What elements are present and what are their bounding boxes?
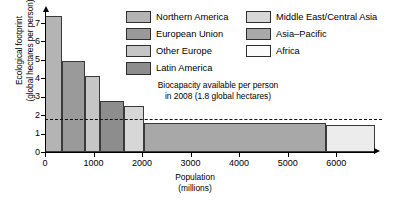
x-axis-tick xyxy=(94,153,95,157)
legend-item-label: Other Europe xyxy=(156,45,212,58)
bar xyxy=(45,16,62,152)
y-axis-tick xyxy=(41,78,45,79)
bar xyxy=(124,106,144,152)
y-axis-tick-label: 7 xyxy=(26,19,40,28)
biocapacity-annotation: Biocapacity available per person in 2008… xyxy=(118,80,318,101)
x-axis-tick xyxy=(336,153,337,157)
y-axis-tick-label: 6 xyxy=(26,37,40,46)
legend-item-label: European Union xyxy=(156,28,223,41)
y-axis-tick-label: 2 xyxy=(26,111,40,120)
y-axis-tick xyxy=(41,134,45,135)
legend-swatch xyxy=(126,28,151,41)
x-axis-arrow-icon xyxy=(374,148,380,154)
legend-item-label: Northern America xyxy=(156,11,228,24)
y-axis-tick-label: 5 xyxy=(26,55,40,64)
y-axis-arrow-icon xyxy=(43,6,49,12)
y-axis-tick-label: 0 xyxy=(26,148,40,157)
y-axis-tick xyxy=(41,41,45,42)
x-axis-tick-label: 3000 xyxy=(171,159,211,168)
x-axis-tick-label: 4000 xyxy=(219,159,259,168)
y-axis-tick xyxy=(41,115,45,116)
x-axis-title-line1: Population xyxy=(110,172,280,183)
legend-item-label: Middle East/Central Asia xyxy=(276,11,377,24)
legend-item-label: Latin America xyxy=(156,62,212,75)
biocapacity-annotation-line1: Biocapacity available per person xyxy=(118,80,318,91)
y-axis-tick xyxy=(41,97,45,98)
chart-root: Ecological footprint (global hectares pe… xyxy=(0,0,396,201)
y-axis-title-line1: Ecological footprint xyxy=(14,0,25,124)
x-axis-title: Population (millions) xyxy=(110,172,280,193)
x-axis-tick xyxy=(239,153,240,157)
bar xyxy=(144,123,327,152)
x-axis-tick xyxy=(45,153,46,157)
x-axis-tick-label: 2000 xyxy=(122,159,162,168)
bar xyxy=(85,76,100,152)
biocapacity-annotation-line2: in 2008 (1.8 global hectares) xyxy=(118,91,318,102)
x-axis-tick xyxy=(288,153,289,157)
legend-swatch xyxy=(246,11,271,24)
x-axis-tick xyxy=(191,153,192,157)
bar xyxy=(100,101,124,152)
legend-swatch xyxy=(246,45,271,58)
x-axis-tick-label: 5000 xyxy=(268,159,308,168)
legend-swatch xyxy=(126,11,151,24)
x-axis-tick xyxy=(142,153,143,157)
biocapacity-reference-line xyxy=(45,119,382,120)
y-axis-tick-label: 1 xyxy=(26,129,40,138)
x-axis-tick-label: 0 xyxy=(25,159,65,168)
y-axis-tick-label: 3 xyxy=(26,92,40,101)
x-axis-tick-label: 6000 xyxy=(316,159,356,168)
bar xyxy=(326,125,375,152)
bar xyxy=(62,61,86,152)
y-axis-tick xyxy=(41,23,45,24)
x-axis-tick-label: 1000 xyxy=(74,159,114,168)
x-axis-title-line2: (millions) xyxy=(110,183,280,194)
legend-swatch xyxy=(126,45,151,58)
legend-swatch xyxy=(126,62,151,75)
y-axis-tick xyxy=(41,60,45,61)
legend-swatch xyxy=(246,28,271,41)
y-axis-tick-label: 4 xyxy=(26,74,40,83)
legend-item-label: Africa xyxy=(276,45,300,58)
legend-item-label: Asia–Pacific xyxy=(276,28,327,41)
y-axis-line xyxy=(45,12,46,153)
